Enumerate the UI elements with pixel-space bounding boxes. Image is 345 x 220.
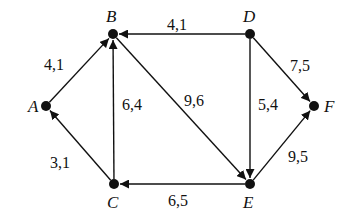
edge-label-a-b: 4,1	[44, 56, 64, 73]
edge-label-d-b: 4,1	[167, 16, 187, 33]
edge-label-e-f: 9,5	[288, 148, 308, 165]
node-label-a: A	[27, 97, 39, 116]
node-label-d: D	[242, 7, 256, 26]
node-label-b: B	[106, 7, 117, 26]
edge-label-d-e: 5,4	[258, 96, 278, 113]
node-d	[245, 29, 255, 39]
graph-diagram: 4,14,17,53,16,49,65,46,59,5ABCDEF	[0, 0, 345, 220]
labels-group: 4,14,17,53,16,49,65,46,59,5ABCDEF	[27, 7, 335, 212]
edge-label-b-e: 9,6	[184, 92, 204, 109]
edge-e-f	[253, 111, 310, 180]
node-e	[245, 179, 255, 189]
edge-label-c-a: 3,1	[50, 154, 70, 171]
node-c	[109, 179, 119, 189]
edge-label-e-c: 6,5	[168, 192, 188, 209]
edge-label-c-b: 6,4	[122, 96, 142, 113]
node-label-f: F	[323, 97, 335, 116]
node-a	[41, 101, 51, 111]
node-b	[108, 29, 118, 39]
node-label-e: E	[242, 193, 254, 212]
edge-label-d-f: 7,5	[290, 57, 310, 74]
graph-svg: 4,14,17,53,16,49,65,46,59,5ABCDEF	[0, 0, 345, 220]
node-label-c: C	[107, 193, 119, 212]
node-f	[309, 101, 319, 111]
edge-c-b	[113, 40, 114, 179]
